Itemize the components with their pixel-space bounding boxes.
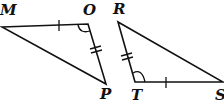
- triangles-diagram: M O P R T S: [0, 0, 224, 102]
- vertex-label-r: R: [112, 0, 125, 18]
- vertex-label-m: M: [0, 1, 17, 19]
- vertex-label-t: T: [131, 86, 144, 102]
- triangle-mop-outline: [2, 24, 106, 84]
- triangle-mop: [2, 20, 106, 84]
- vertex-label-o: O: [83, 1, 96, 19]
- triangle-rts: [118, 22, 223, 88]
- vertex-label-p: P: [99, 85, 112, 102]
- vertex-label-s: S: [215, 86, 224, 102]
